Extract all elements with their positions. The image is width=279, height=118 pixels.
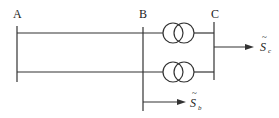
svg-text:b: b	[198, 104, 202, 112]
arrowhead-c-icon	[245, 44, 254, 50]
power-system-diagram: A B C ~ S c ~ S b	[0, 0, 279, 118]
svg-text:c: c	[268, 47, 272, 55]
svg-text:S: S	[260, 40, 266, 54]
node-label-a: A	[13, 7, 22, 21]
transformer-upper-icon	[163, 23, 194, 43]
arrowhead-b-icon	[177, 99, 186, 105]
node-label-b: B	[139, 7, 147, 21]
node-label-c: C	[211, 7, 219, 21]
load-label-sb: ~ S b	[190, 88, 202, 112]
load-label-sc: ~ S c	[260, 32, 272, 55]
svg-text:S: S	[190, 96, 196, 110]
transformer-lower-icon	[163, 62, 194, 82]
